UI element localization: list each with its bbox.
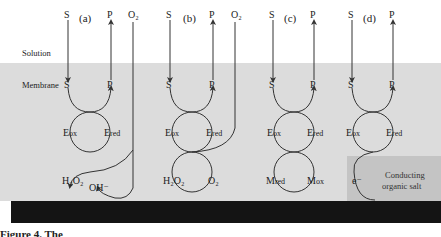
panel-a-product-membrane: P (107, 80, 113, 90)
panel-a-oxygen: O₂ (128, 10, 139, 20)
panel-d-enzyme-red: Ered (386, 128, 402, 138)
panel-c-label: (c) (284, 12, 296, 24)
panel-c-enzyme-red: Ered (307, 128, 323, 138)
panel-d-enzyme-ox: Eox (346, 128, 360, 138)
panel-c-product-membrane: P (310, 80, 316, 90)
panel-b-oxygen-bottom: O₂ (208, 176, 219, 186)
electrode (11, 201, 441, 223)
panel-b-h2o2: H₂O₂ (163, 176, 184, 186)
panel-c-substrate-membrane: S (269, 80, 275, 90)
panel-d-substrate: S (348, 10, 354, 20)
panel-c-product: P (310, 10, 316, 20)
panel-d-product: P (389, 10, 395, 20)
solution-label: Solution (22, 48, 51, 58)
panel-b-substrate: S (166, 10, 172, 20)
panel-a-substrate: S (64, 10, 70, 20)
panel-c-mediator-ox: Mox (307, 176, 324, 186)
panel-d-substrate-membrane: S (348, 80, 354, 90)
panel-d-product-membrane: P (389, 80, 395, 90)
panel-b-product-membrane: P (209, 80, 215, 90)
panel-b-oxygen: O₂ (231, 10, 242, 20)
panel-a-enzyme-red: Ered (104, 128, 120, 138)
panel-a-product: P (107, 10, 113, 20)
panel-c-enzyme-ox: Eox (267, 128, 281, 138)
panel-a-label: (a) (79, 12, 91, 24)
panel-b-enzyme-ox: Eox (165, 128, 179, 138)
panel-b-substrate-membrane: S (166, 80, 172, 90)
panel-b-enzyme-red: Ered (206, 128, 222, 138)
panel-d-electron: e⁻ (352, 176, 362, 186)
panel-a-substrate-membrane: S (64, 80, 70, 90)
panel-b-label: (b) (183, 12, 196, 24)
diagram-canvas (0, 0, 441, 237)
conducting-salt-label-2: organic salt (382, 181, 421, 191)
panel-b-product: P (209, 10, 215, 20)
panel-c-mediator-red: Mred (266, 176, 285, 186)
figure-caption: Figure 4. The (0, 228, 63, 237)
panel-d-label: (d) (363, 12, 376, 24)
panel-a-enzyme-ox: Eox (63, 128, 77, 138)
panel-c-substrate: S (269, 10, 275, 20)
panel-a-hydroxide: OH⁻ (89, 183, 109, 193)
conducting-salt-label-1: Conducting (385, 170, 425, 180)
membrane-label: Membrane (22, 80, 59, 90)
panel-a-h2o2: H₂O₂ (62, 176, 83, 186)
